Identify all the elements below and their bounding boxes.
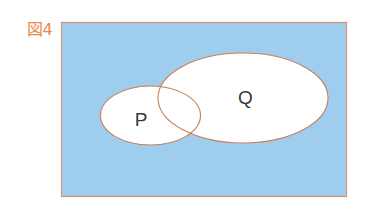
set-p-label: P	[135, 109, 148, 130]
venn-diagram: P Q	[0, 0, 372, 214]
set-q-label: Q	[238, 87, 253, 108]
